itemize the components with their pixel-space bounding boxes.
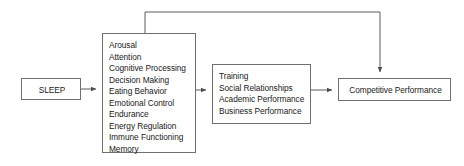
list-item: Cognitive Processing bbox=[109, 63, 186, 75]
node-mediators-list: Arousal Attention Cognitive Processing D… bbox=[109, 40, 186, 155]
list-item: Eating Behavior bbox=[109, 86, 186, 98]
node-domains: Training Social Relationships Academic P… bbox=[212, 64, 311, 124]
list-item: Arousal bbox=[109, 40, 186, 52]
list-item: Memory bbox=[109, 144, 186, 156]
list-item: Endurance bbox=[109, 109, 186, 121]
node-mediators: Arousal Attention Cognitive Processing D… bbox=[102, 33, 196, 153]
list-item: Emotional Control bbox=[109, 98, 186, 110]
list-item: Business Performance bbox=[219, 106, 304, 118]
node-outcome-label: Competitive Performance bbox=[339, 79, 452, 102]
list-item: Social Relationships bbox=[219, 83, 304, 95]
list-item: Immune Functioning bbox=[109, 132, 186, 144]
list-item: Energy Regulation bbox=[109, 121, 186, 133]
list-item: Attention bbox=[109, 52, 186, 64]
flow-diagram: SLEEP Arousal Attention Cognitive Proces… bbox=[0, 0, 464, 166]
node-sleep: SLEEP bbox=[21, 78, 81, 100]
list-item: Decision Making bbox=[109, 75, 186, 87]
node-domains-list: Training Social Relationships Academic P… bbox=[219, 71, 304, 117]
node-sleep-label: SLEEP bbox=[22, 79, 82, 101]
list-item: Academic Performance bbox=[219, 94, 304, 106]
list-item: Training bbox=[219, 71, 304, 83]
node-outcome: Competitive Performance bbox=[338, 78, 451, 101]
